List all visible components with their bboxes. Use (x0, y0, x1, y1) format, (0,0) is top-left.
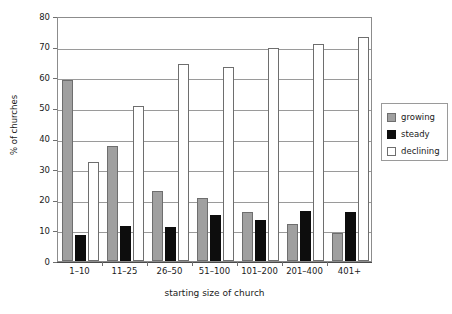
y-axis-tick-label: 50 (26, 104, 50, 113)
bar-declining (178, 64, 190, 262)
bar-group (62, 16, 100, 261)
x-axis-tick (282, 262, 283, 266)
bar-growing (287, 224, 299, 261)
bar-steady (165, 227, 177, 261)
bar-growing (62, 80, 74, 261)
bar-growing (197, 198, 209, 261)
bar-group (107, 16, 145, 261)
x-axis-tick-label: 1–10 (57, 266, 102, 276)
y-axis-tick (53, 262, 57, 263)
legend-item-steady: steady (387, 126, 447, 143)
bar-declining (358, 37, 370, 261)
y-axis-tick-labels: 01020304050607080 (22, 0, 50, 314)
x-axis-tick (192, 262, 193, 266)
bar-steady (300, 211, 312, 262)
bar-declining (133, 106, 145, 261)
bar-chart: % of churches 01020304050607080 1–1011–2… (0, 0, 452, 314)
y-axis-tick (53, 231, 57, 232)
legend-swatch-growing (387, 113, 396, 122)
y-axis-tick-label: 10 (26, 227, 50, 236)
y-axis-tick-label: 70 (26, 43, 50, 52)
x-axis-tick-label: 201–400 (282, 266, 327, 276)
x-axis-tick-label: 401+ (327, 266, 372, 276)
y-axis-tick-label: 40 (26, 135, 50, 144)
legend-label: steady (401, 130, 430, 139)
y-axis-tick (53, 48, 57, 49)
x-axis-tick (237, 262, 238, 266)
x-axis-tick (327, 262, 328, 266)
bar-steady (210, 215, 222, 261)
bar-steady (75, 235, 87, 261)
y-axis-title: % of churches (9, 77, 19, 173)
bar-group (197, 16, 235, 261)
y-axis-tick-label: 0 (26, 258, 50, 267)
legend-item-growing: growing (387, 109, 447, 126)
bar-growing (107, 146, 119, 261)
y-axis-tick-label: 60 (26, 74, 50, 83)
bar-declining (268, 48, 280, 261)
legend-label: declining (401, 147, 440, 156)
chart-legend: growingsteadydeclining (381, 103, 448, 161)
bar-growing (152, 191, 164, 261)
y-axis-tick (53, 201, 57, 202)
bar-steady (120, 226, 132, 261)
legend-swatch-steady (387, 130, 396, 139)
bar-growing (332, 233, 344, 261)
bar-steady (255, 220, 267, 261)
bar-declining (223, 67, 235, 262)
x-axis-tick (147, 262, 148, 266)
x-axis-tick-label: 26–50 (147, 266, 192, 276)
y-axis-tick-label: 80 (26, 13, 50, 22)
bar-group (287, 16, 325, 261)
bar-group (152, 16, 190, 261)
x-axis-tick (102, 262, 103, 266)
y-axis-tick-label: 30 (26, 166, 50, 175)
y-axis-tick (53, 17, 57, 18)
legend-swatch-declining (387, 147, 396, 156)
bar-growing (242, 212, 254, 261)
y-axis-tick (53, 109, 57, 110)
bar-steady (345, 212, 357, 261)
bar-declining (313, 44, 325, 261)
legend-label: growing (401, 113, 435, 122)
x-axis-line (57, 262, 372, 263)
y-axis-tick (53, 140, 57, 141)
bar-group (332, 16, 370, 261)
legend-item-declining: declining (387, 143, 447, 160)
plot-area (57, 17, 372, 262)
bar-group (242, 16, 280, 261)
x-axis-title: starting size of church (57, 288, 372, 298)
bar-declining (88, 162, 100, 262)
x-axis-tick-label: 11–25 (102, 266, 147, 276)
x-axis-tick-label: 101–200 (237, 266, 282, 276)
y-axis-tick (53, 170, 57, 171)
y-axis-tick-label: 20 (26, 196, 50, 205)
y-axis-tick (53, 78, 57, 79)
x-axis-tick-label: 51–100 (192, 266, 237, 276)
